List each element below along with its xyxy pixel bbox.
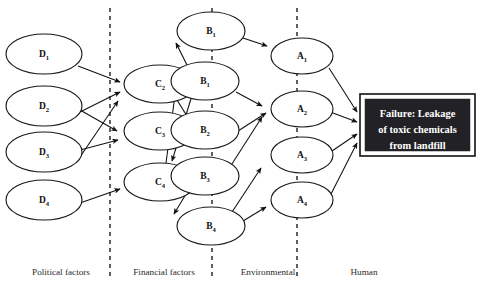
edge-a1-to-outcome <box>329 68 357 112</box>
edge-d3-to-c3 <box>80 140 118 150</box>
node-d2[interactable]: D2 <box>6 86 82 126</box>
causal-factor-diagram: D1D2D3D4C2C3C4B1B1B2B3B4A1A2A3A4 Failure… <box>0 0 479 294</box>
node-d4[interactable]: D4 <box>6 180 82 220</box>
edge-btop-to-a1 <box>243 38 267 46</box>
edge-b1-to-a2 <box>236 92 262 106</box>
node-a4[interactable]: A4 <box>271 182 333 218</box>
edge-a2-to-outcome <box>333 113 357 122</box>
outcome-event-box[interactable]: Failure: Leakageof toxic chemicalsfrom l… <box>360 94 475 156</box>
outcome-text-line-3: from landfill <box>389 140 445 151</box>
node-d3[interactable]: D3 <box>6 132 82 172</box>
edge-d2-to-c3 <box>80 110 117 131</box>
lane-caption-political: Political factors <box>32 267 90 277</box>
edge-d2-to-c2 <box>76 92 120 114</box>
edge-a3-to-outcome <box>332 134 357 151</box>
node-b4[interactable]: B4 <box>177 207 245 245</box>
edge-d1-to-c2 <box>78 66 120 82</box>
node-d1[interactable]: D1 <box>6 34 82 74</box>
edge-d4-to-c4 <box>80 189 120 203</box>
lane-caption-human: Human <box>350 267 377 277</box>
diagram-canvas: D1D2D3D4C2C3C4B1B1B2B3B4A1A2A3A4 Failure… <box>0 0 479 294</box>
node-a2[interactable]: A2 <box>271 91 333 127</box>
edge-b4-to-a4 <box>243 207 266 221</box>
node-a3[interactable]: A3 <box>271 137 333 173</box>
lane-caption-environmental: Environmental <box>241 267 296 277</box>
edge-b2-to-a2 <box>238 113 266 131</box>
node-b1[interactable]: B1 <box>171 62 239 100</box>
edge-a4-to-outcome <box>331 143 357 194</box>
lane-caption-financial: Financial factors <box>133 267 195 277</box>
node-b2[interactable]: B2 <box>171 111 239 149</box>
lane-caption-group: Political factorsFinancial factorsEnviro… <box>32 267 378 277</box>
node-b3[interactable]: B3 <box>171 157 239 195</box>
node-a1[interactable]: A1 <box>271 38 333 74</box>
outcome-text-line-2: of toxic chemicals <box>378 124 456 135</box>
node-group: D1D2D3D4C2C3C4B1B1B2B3B4A1A2A3A4 <box>6 12 333 245</box>
outcome-text-line-1: Failure: Leakage <box>380 108 456 119</box>
node-btop[interactable]: B1 <box>177 12 245 50</box>
